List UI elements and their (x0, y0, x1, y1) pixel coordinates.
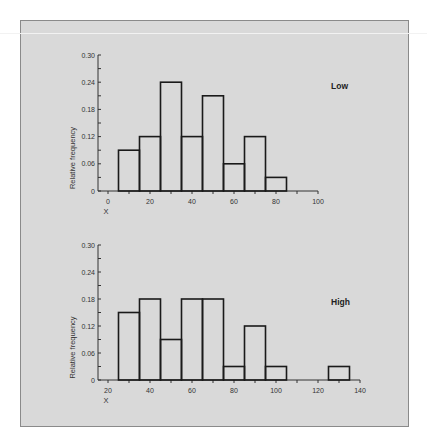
y-tick-label: 0.06 (81, 160, 95, 167)
y-tick-label: 0.30 (81, 242, 95, 249)
x-tick-label: 100 (312, 198, 324, 205)
histogram-bar (266, 367, 287, 381)
x-tick-label: 100 (270, 387, 282, 394)
x-tick-label: 20 (104, 387, 112, 394)
x-tick-label: 60 (230, 198, 238, 205)
histogram-bar (245, 137, 266, 191)
x-tick-label: 0 (106, 198, 110, 205)
series-label: High (331, 297, 350, 307)
x-axis-title: X (103, 207, 108, 216)
histogram-bar (329, 367, 350, 381)
x-tick-label: 120 (312, 387, 324, 394)
y-tick-label: 0.30 (81, 52, 95, 59)
x-tick-label: 40 (146, 387, 154, 394)
y-tick-label: 0.06 (81, 350, 95, 357)
histogram-bar (203, 299, 224, 380)
histogram-bar (119, 150, 140, 191)
histogram-bar (203, 96, 224, 191)
histogram-bar (182, 299, 203, 380)
x-tick-label: 40 (188, 198, 196, 205)
x-tick-label: 80 (230, 387, 238, 394)
histogram-bar (224, 367, 245, 381)
y-tick-label: 0.12 (81, 133, 95, 140)
y-tick-label: 0.24 (81, 79, 95, 86)
x-tick-label: 20 (146, 198, 154, 205)
y-tick-label: 0.12 (81, 323, 95, 330)
histogram-bar (161, 340, 182, 381)
y-axis-title: Relative frequency (68, 316, 77, 378)
y-tick-label: 0.18 (81, 296, 95, 303)
y-tick-label: 0.24 (81, 269, 95, 276)
histogram-figure: 00.060.120.180.240.30020406080100XRelati… (0, 0, 427, 445)
series-label: Low (331, 81, 348, 91)
histogram-bar (161, 82, 182, 191)
x-axis-title: X (103, 396, 108, 405)
histogram-high: 00.060.120.180.240.3020406080100120140XR… (68, 242, 366, 406)
histogram-low: 00.060.120.180.240.30020406080100XRelati… (68, 52, 348, 217)
histogram-bar (119, 313, 140, 381)
x-tick-label: 80 (272, 198, 280, 205)
y-tick-label: 0 (91, 377, 95, 384)
y-axis-title: Relative frequency (68, 127, 77, 189)
histogram-bar (140, 299, 161, 380)
x-tick-label: 60 (188, 387, 196, 394)
histogram-bar (224, 164, 245, 191)
x-tick-label: 140 (354, 387, 366, 394)
histogram-bar (140, 137, 161, 191)
histogram-bar (245, 326, 266, 380)
y-tick-label: 0.18 (81, 106, 95, 113)
histogram-bar (266, 177, 287, 191)
histogram-bar (182, 137, 203, 191)
y-tick-label: 0 (91, 188, 95, 195)
